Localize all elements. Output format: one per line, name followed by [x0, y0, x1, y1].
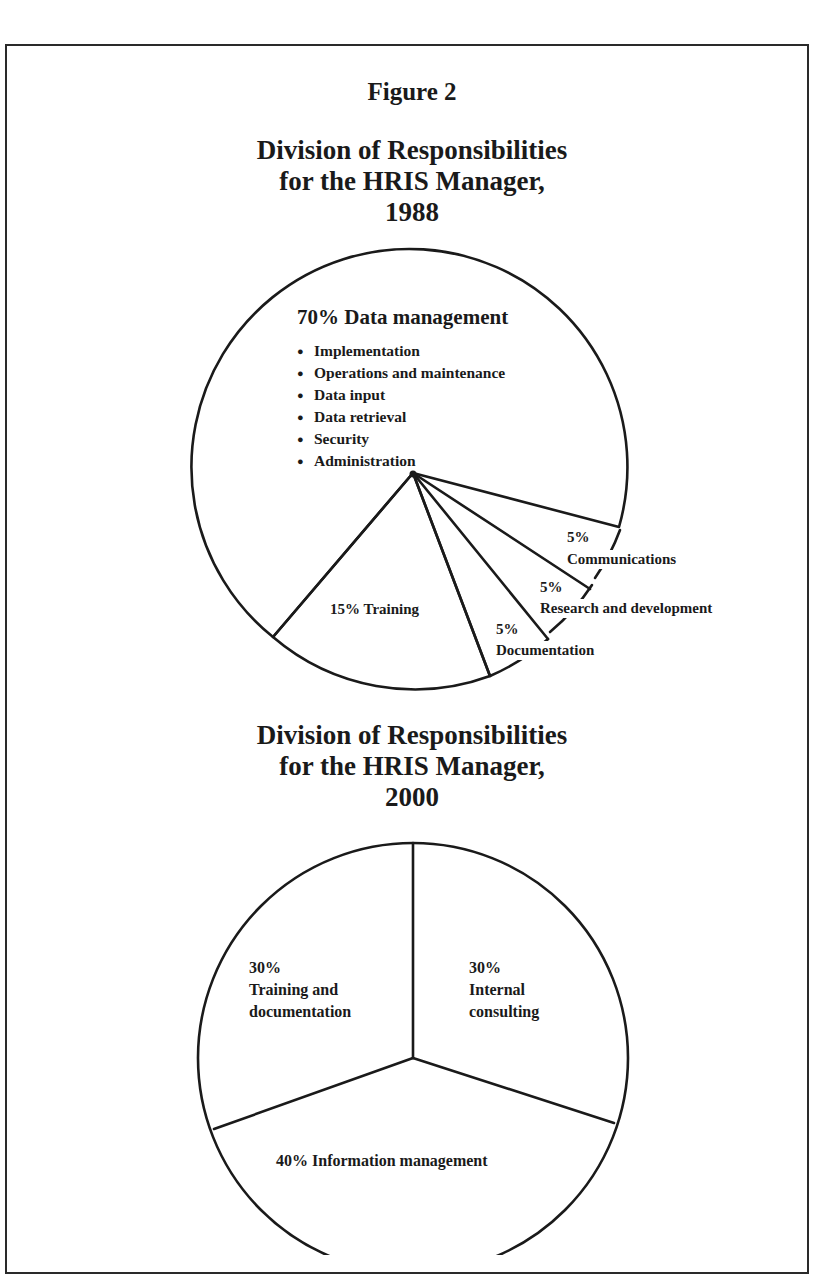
slice-name-documentation: Documentation — [495, 641, 595, 660]
sub-item: Operations and maintenance — [297, 362, 505, 384]
slice-label-training: 15% Training — [330, 600, 419, 619]
figure-frame — [5, 44, 809, 1274]
sub-item: Administration — [297, 450, 505, 472]
slice-pct: 15% — [330, 601, 360, 617]
slice-name-line: consulting — [469, 1001, 539, 1023]
slice-pct: 40% — [276, 1152, 308, 1169]
slice-label-internal-consulting: 30% Internal consulting — [469, 957, 539, 1023]
slice-name-line: Internal — [469, 979, 539, 1001]
slice-name-research-development: Research and development — [539, 599, 713, 618]
slice-pct: 30% — [249, 957, 351, 979]
figure-label: Figure 2 — [0, 78, 824, 106]
chart-title-line: Division of Responsibilities — [0, 720, 824, 751]
slice-pct-communications: 5% — [566, 528, 591, 547]
chart-title-line: 2000 — [0, 782, 824, 813]
slice-name: Information management — [312, 1152, 488, 1169]
slice-name-line: documentation — [249, 1001, 351, 1023]
slice-name-line: Training and — [249, 979, 351, 1001]
sub-item: Data retrieval — [297, 406, 505, 428]
slice-pct-documentation: 5% — [495, 620, 520, 639]
sub-item: Implementation — [297, 340, 505, 362]
slice-name: Data management — [344, 305, 508, 329]
chart-title-1988: Division of Responsibilities for the HRI… — [0, 135, 824, 228]
chart-title-2000: Division of Responsibilities for the HRI… — [0, 720, 824, 813]
slice-pct-research-development: 5% — [539, 578, 564, 597]
sub-item: Data input — [297, 384, 505, 406]
slice-name-communications: Communications — [566, 550, 677, 569]
slice-pct: 70% — [297, 305, 339, 329]
chart-title-line: Division of Responsibilities — [0, 135, 824, 166]
slice-pct: 30% — [469, 957, 539, 979]
sub-item: Security — [297, 428, 505, 450]
chart-title-line: for the HRIS Manager, — [0, 751, 824, 782]
slice-label-training-documentation: 30% Training and documentation — [249, 957, 351, 1023]
data-management-sub-items: Implementation Operations and maintenanc… — [297, 340, 505, 472]
slice-label-data-management: 70% Data management — [297, 305, 508, 329]
chart-title-line: for the HRIS Manager, — [0, 166, 824, 197]
slice-label-information-management: 40% Information management — [276, 1151, 488, 1170]
slice-name: Training — [363, 601, 419, 617]
chart-title-line: 1988 — [0, 197, 824, 228]
